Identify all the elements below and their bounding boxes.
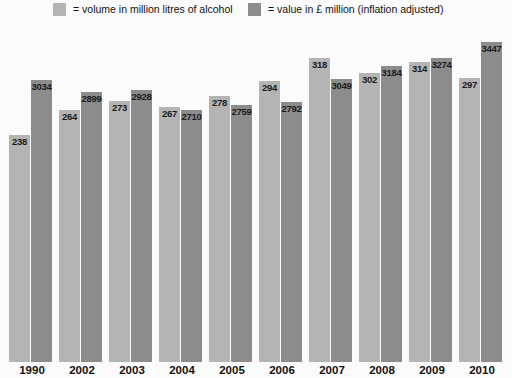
bar-value: 3184 [381, 66, 402, 362]
bar-value-label: 3034 [31, 82, 52, 92]
bar-volume: 318 [309, 58, 330, 362]
bar-value-label: 318 [309, 60, 330, 70]
x-axis-label: 2003 [108, 362, 156, 378]
legend-item-volume: = volume in million litres of alcohol [53, 0, 233, 18]
bar-value-label: 2899 [81, 94, 102, 104]
x-axis-label: 2005 [208, 362, 256, 378]
bar-value: 3447 [481, 42, 502, 362]
bar-group: 3143274 [408, 18, 456, 362]
bar-value: 2759 [231, 105, 252, 362]
legend-item-value: = value in £ million (inflation adjusted… [248, 0, 443, 18]
bar-volume: 273 [109, 101, 130, 362]
chart-legend: = volume in million litres of alcohol = … [0, 0, 512, 18]
legend-swatch-volume-icon [53, 3, 66, 16]
bar-group: 3023184 [358, 18, 406, 362]
bar-value: 2792 [281, 102, 302, 362]
bar-volume: 294 [259, 81, 280, 362]
bar-volume: 267 [159, 107, 180, 362]
bar-value-label: 294 [259, 83, 280, 93]
bar-volume: 238 [9, 135, 30, 362]
bar-volume: 297 [459, 78, 480, 362]
bar-value-label: 2710 [181, 112, 202, 122]
bar-group: 2672710 [158, 18, 206, 362]
bar-value: 3034 [31, 80, 52, 362]
bar-value-label: 3274 [431, 60, 452, 70]
bar-value-label: 273 [109, 103, 130, 113]
legend-label-volume: = volume in million litres of alcohol [73, 3, 233, 16]
legend-swatch-value-icon [248, 3, 261, 16]
x-axis-label: 2006 [258, 362, 306, 378]
bar-value-label: 302 [359, 75, 380, 85]
bar-group: 2383034 [8, 18, 56, 362]
bar-value-label: 264 [59, 112, 80, 122]
bar-chart: = volume in million litres of alcohol = … [0, 0, 512, 378]
bar-value-label: 2792 [281, 104, 302, 114]
bar-group: 2732928 [108, 18, 156, 362]
bar-value-label: 278 [209, 98, 230, 108]
bar-value-label: 3049 [331, 81, 352, 91]
bar-value: 2899 [81, 92, 102, 362]
bar-value: 3274 [431, 58, 452, 362]
bar-group: 3183049 [308, 18, 356, 362]
bar-volume: 302 [359, 73, 380, 362]
bar-value-label: 314 [409, 64, 430, 74]
bar-volume: 278 [209, 96, 230, 362]
bar-value-label: 3184 [381, 68, 402, 78]
bar-value: 2928 [131, 90, 152, 362]
bar-value-label: 297 [459, 80, 480, 90]
plot-area: 2383034264289927329282672710278275929427… [0, 18, 512, 362]
bar-group: 2782759 [208, 18, 256, 362]
bar-group: 2942792 [258, 18, 306, 362]
x-axis-label: 2002 [58, 362, 106, 378]
bar-value-label: 2928 [131, 92, 152, 102]
x-axis-label: 2004 [158, 362, 206, 378]
bar-value: 2710 [181, 110, 202, 362]
bar-value-label: 3447 [481, 44, 502, 54]
legend-label-value: = value in £ million (inflation adjusted… [268, 3, 443, 16]
bar-volume: 314 [409, 62, 430, 362]
x-axis: 1990200220032004200520062007200820092010 [0, 362, 512, 378]
x-axis-label: 2007 [308, 362, 356, 378]
bar-value-label: 2759 [231, 107, 252, 117]
x-axis-label: 1990 [8, 362, 56, 378]
x-axis-label: 2008 [358, 362, 406, 378]
bar-value-label: 238 [9, 137, 30, 147]
bar-value: 3049 [331, 79, 352, 362]
bar-group: 2642899 [58, 18, 106, 362]
bar-value-label: 267 [159, 109, 180, 119]
x-axis-label: 2010 [458, 362, 506, 378]
x-axis-label: 2009 [408, 362, 456, 378]
bar-group: 2973447 [458, 18, 506, 362]
bar-volume: 264 [59, 110, 80, 362]
